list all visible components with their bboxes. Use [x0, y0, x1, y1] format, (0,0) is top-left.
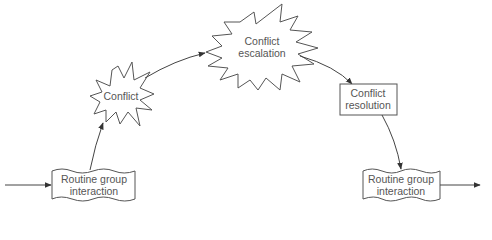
escalation-line2: escalation: [238, 47, 285, 59]
edge-conflict-to-escalation: [145, 53, 205, 78]
routine-end-label: Routine group interaction: [368, 173, 434, 197]
conflict-label: Conflict: [103, 90, 138, 102]
escalation-label: Conflict escalation: [238, 35, 285, 59]
routine-start-label: Routine group interaction: [61, 173, 127, 197]
routine-end-line2: interaction: [368, 185, 434, 197]
edge-start-to-conflict: [90, 123, 103, 170]
conflict-line1: Conflict: [103, 90, 138, 102]
routine-end-line1: Routine group: [368, 173, 434, 185]
routine-start-line1: Routine group: [61, 173, 127, 185]
resolution-label: Conflict resolution: [345, 87, 391, 111]
resolution-line1: Conflict: [345, 87, 391, 99]
resolution-line2: resolution: [345, 99, 391, 111]
edge-resolution-to-end: [382, 115, 401, 169]
escalation-line1: Conflict: [238, 35, 285, 47]
routine-start-line2: interaction: [61, 185, 127, 197]
